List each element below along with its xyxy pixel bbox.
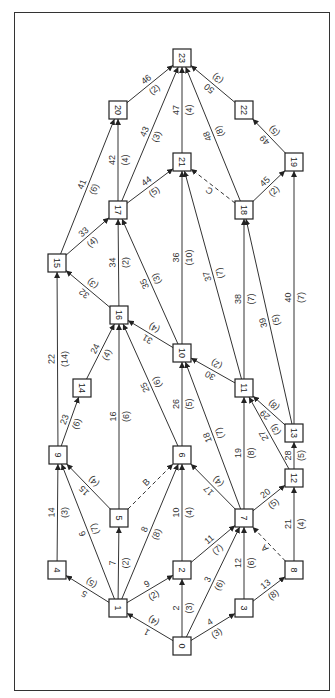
arrow-line (253, 119, 286, 153)
edge-label: 40 (283, 292, 293, 302)
edge-label: 44 (139, 174, 153, 188)
node-label: 12 (289, 473, 299, 483)
edge-duration: (4) (184, 507, 194, 518)
edge-label: 45 (258, 175, 272, 189)
edge-duration: (3) (59, 507, 69, 518)
edge-24: 24(4) (87, 324, 115, 379)
edge-duration: (4) (184, 104, 194, 115)
arrow-line (118, 527, 119, 599)
node-label: 7 (239, 515, 249, 520)
edge-duration: (6) (87, 182, 100, 196)
node-label: 21 (177, 157, 187, 167)
node-label: 15 (52, 258, 62, 268)
node-5: 5 (110, 509, 128, 527)
edge-label: 33 (77, 225, 91, 239)
arrow-line (253, 171, 285, 202)
arrow-line (127, 169, 173, 204)
edge-duration: (6) (70, 417, 83, 431)
edge-20: 20(5) (253, 485, 285, 511)
node-6: 6 (173, 446, 191, 464)
edge-44: 44(5) (127, 169, 173, 204)
edge-1: 1(4) (127, 613, 173, 640)
edge-duration: (10) (184, 249, 194, 265)
edge-duration: (5) (184, 398, 194, 409)
edge-label: 31 (141, 332, 155, 346)
edge-duration: (8) (150, 527, 163, 541)
edge-label: 38 (233, 294, 243, 304)
edge-duration: (7) (213, 426, 226, 440)
node-label: 20 (113, 105, 123, 115)
arrow-line (66, 271, 110, 308)
node-label: 3 (239, 605, 249, 610)
node-20: 20 (109, 101, 127, 119)
node-label: 1 (113, 605, 123, 610)
arrow-line (191, 526, 235, 563)
node-9: 9 (49, 446, 67, 464)
edge-label: 30 (203, 369, 217, 383)
node-label: 11 (239, 383, 249, 392)
edge-label: 29 (258, 408, 272, 422)
edge-label: 5 (80, 589, 90, 600)
edge-9: 9(2) (127, 575, 173, 602)
edge-label: 11 (202, 533, 216, 547)
node-21: 21 (173, 153, 191, 171)
edge-49: 49(5) (253, 119, 286, 153)
node-16: 16 (110, 306, 128, 324)
node-label: 2 (177, 567, 187, 572)
edge-30: 30(2) (191, 357, 235, 383)
edge-34: 34(2) (107, 219, 130, 306)
edge-36: 36(10) (171, 171, 194, 344)
arrow-line (191, 169, 235, 203)
edge-10: 10(4) (171, 464, 194, 561)
node-15: 15 (48, 254, 66, 272)
edge-label: 7 (107, 560, 117, 565)
edge-label: 26 (171, 399, 181, 409)
node-label: 16 (114, 310, 124, 320)
edge-29: 29(8) (253, 396, 285, 425)
node-8: 8 (285, 561, 303, 579)
node-label: 10 (177, 348, 187, 358)
edge-label: 20 (258, 486, 272, 500)
edge-38: 38(7) (233, 219, 256, 379)
edge-5: 5(5) (66, 576, 109, 603)
node-3: 3 (235, 599, 253, 617)
edge-duration: (5) (296, 450, 306, 461)
edge-B: B (128, 464, 173, 509)
node-label: 19 (289, 157, 299, 167)
edge-label: 39 (257, 317, 269, 329)
node-12: 12 (285, 469, 303, 487)
node-19: 19 (285, 153, 303, 171)
node-0: 0 (173, 637, 191, 655)
edge-duration: (8) (213, 124, 226, 138)
edge-label: 14 (46, 507, 56, 517)
edge-duration: (3) (150, 272, 164, 286)
edge-duration: (7) (246, 293, 256, 304)
edge-label: 28 (283, 450, 293, 460)
node-label: 4 (52, 567, 62, 572)
edge-duration: (8) (246, 447, 256, 458)
edge-label: 50 (202, 82, 216, 96)
node-label: 8 (289, 567, 299, 572)
edge-label: 34 (107, 258, 117, 268)
edge-duration: (7) (213, 267, 226, 280)
edge-label: 49 (258, 133, 272, 147)
edge-label: 8 (139, 525, 150, 533)
edge-label: 2 (171, 605, 181, 610)
node-1: 1 (109, 599, 127, 617)
node-label: 22 (239, 105, 249, 115)
edge-label: 16 (108, 411, 118, 421)
edge-37: 37(7) (184, 171, 241, 379)
edge-duration: (2) (120, 257, 130, 268)
edge-label: 32 (77, 287, 91, 301)
node-label: 13 (289, 428, 299, 438)
arrow-line (253, 396, 285, 425)
node-17: 17 (109, 201, 127, 219)
edge-label: 46 (139, 72, 153, 86)
edge-A: A (253, 527, 286, 561)
node-22: 22 (235, 101, 253, 119)
node-7: 7 (235, 509, 253, 527)
node-14: 14 (73, 379, 91, 397)
edge-17: 17(4) (191, 464, 235, 509)
edge-40: 40(7) (283, 171, 306, 424)
edge-label: 36 (171, 252, 181, 262)
